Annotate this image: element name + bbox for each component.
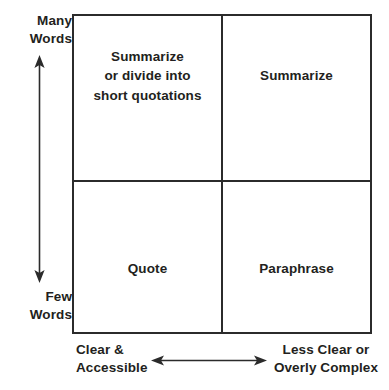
quadrant-bottom-left-label: Quote [128, 259, 168, 278]
x-axis-left-label: Clear & Accessible [76, 341, 148, 377]
y-axis-bottom-label: Few Words [2, 288, 72, 324]
quadrant-top-right: Summarize [223, 16, 370, 180]
x-axis-right-label: Less Clear or Overly Complex [265, 341, 387, 377]
x-axis-arrow [150, 350, 268, 371]
quadrant-bottom-left: Quote [74, 182, 221, 332]
quadrant-diagram: Many Words Few Words Summarize or divide… [0, 0, 389, 390]
quadrant-top-left-label: Summarize or divide into short quotation… [93, 47, 201, 104]
quadrant-top-left: Summarize or divide into short quotation… [74, 16, 221, 180]
y-axis-arrow [29, 54, 50, 284]
quadrant-bottom-right-label: Paraphrase [259, 259, 334, 278]
quadrant-bottom-right: Paraphrase [223, 182, 370, 332]
quadrant-top-right-label: Summarize [260, 66, 333, 85]
y-axis-top-label: Many Words [2, 12, 72, 48]
